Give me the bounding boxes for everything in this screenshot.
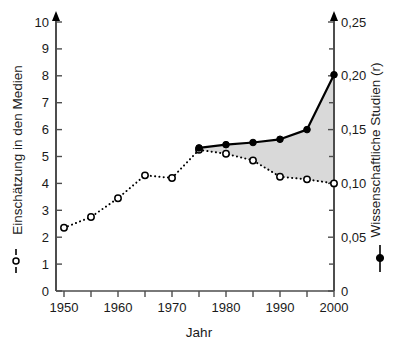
open-circle-marker-icon xyxy=(250,157,256,163)
open-circle-marker-icon xyxy=(88,214,94,220)
legend-open-circle-marker-icon xyxy=(13,258,19,264)
y-axis-tick-label: 4 xyxy=(42,176,49,191)
open-circle-marker-icon xyxy=(142,172,148,178)
y2-axis-tick-label: 0,15 xyxy=(341,122,366,137)
open-circle-marker-icon xyxy=(61,225,67,231)
left-axis-title: Einschätzung in den Medien xyxy=(10,65,25,235)
y2-axis-tick-label: 0,25 xyxy=(341,15,366,30)
y-axis-tick-label: 8 xyxy=(42,68,49,83)
y2-axis-tick-label: 0,05 xyxy=(341,230,366,245)
filled-circle-marker-icon xyxy=(223,141,230,148)
open-circle-marker-icon xyxy=(331,180,337,186)
filled-circle-marker-icon xyxy=(331,71,338,78)
y2-axis-tick-label: 0,20 xyxy=(341,68,366,83)
y-axis-tick-label: 6 xyxy=(42,122,49,137)
y-axis-tick-label: 3 xyxy=(42,203,49,218)
filled-circle-marker-icon xyxy=(250,139,257,146)
y-axis-tick-label: 0 xyxy=(42,284,49,299)
x-axis-tick-label: 1960 xyxy=(104,300,133,315)
x-axis-tick-label: 2000 xyxy=(320,300,349,315)
legend-filled-circle-marker-icon xyxy=(376,254,383,261)
open-circle-marker-icon xyxy=(169,175,175,181)
y-axis-tick-label: 7 xyxy=(42,95,49,110)
x-axis-tick-label: 1970 xyxy=(158,300,187,315)
y2-axis-tick-label: 0,10 xyxy=(341,176,366,191)
filled-circle-marker-icon xyxy=(196,145,203,152)
y-axis-tick-label: 10 xyxy=(35,15,49,30)
open-circle-marker-icon xyxy=(115,195,121,201)
y-axis-tick-label: 9 xyxy=(42,41,49,56)
x-axis-tick-label: 1990 xyxy=(266,300,295,315)
y-axis-tick-label: 5 xyxy=(42,149,49,164)
y-axis-tick-label: 1 xyxy=(42,257,49,272)
open-circle-marker-icon xyxy=(277,173,283,179)
shaded-difference-area xyxy=(199,75,334,184)
x-axis-title: Jahr xyxy=(186,325,213,340)
right-axis-title: Wissenschaftliche Studien (r) xyxy=(368,63,383,238)
x-axis-tick-label: 1950 xyxy=(50,300,79,315)
y-axis-tick-label: 2 xyxy=(42,230,49,245)
open-circle-marker-icon xyxy=(304,176,310,182)
chart-figure: 01234567891000,050,100,150,200,251950196… xyxy=(0,0,402,345)
filled-circle-marker-icon xyxy=(277,136,284,143)
filled-circle-marker-icon xyxy=(304,126,311,133)
right-axis-arrow-up-icon xyxy=(330,11,338,21)
chart-canvas: 01234567891000,050,100,150,200,251950196… xyxy=(0,0,402,345)
y2-axis-tick-label: 0 xyxy=(341,284,348,299)
open-circle-marker-icon xyxy=(223,151,229,157)
x-axis-tick-label: 1980 xyxy=(212,300,241,315)
left-axis-arrow-up-icon xyxy=(52,11,60,21)
